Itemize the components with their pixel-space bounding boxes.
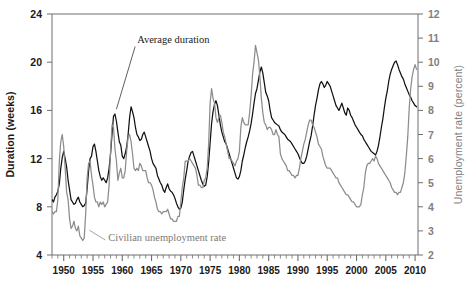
chart-figure: 1950195519601965197019751980198519901995… <box>0 0 475 293</box>
y-tick-label: 16 <box>30 104 42 116</box>
y-axis-title: Duration (weeks) <box>4 91 16 177</box>
x-tick-label: 1995 <box>316 265 339 276</box>
chart-svg: 1950195519601965197019751980198519901995… <box>0 0 475 293</box>
y-tick-label: 24 <box>30 8 42 20</box>
annotation-label: Civilian unemployment rate <box>108 232 226 243</box>
y2-tick-label: 3 <box>428 225 434 237</box>
y2-axis-title: Unemployment rate (percent) <box>452 65 464 204</box>
y2-tick-label: 2 <box>428 249 434 261</box>
x-tick-label: 1965 <box>140 265 163 276</box>
x-tick-label: 1980 <box>228 265 251 276</box>
y2-tick-label: 7 <box>428 129 434 141</box>
x-tick-label: 1985 <box>258 265 281 276</box>
annotation-label: Average duration <box>137 34 210 45</box>
y2-tick-label: 4 <box>428 201 434 213</box>
x-tick-label: 1990 <box>287 265 310 276</box>
y2-tick-label: 11 <box>428 32 439 44</box>
y-tick-label: 4 <box>36 249 42 261</box>
chart-background <box>0 0 475 293</box>
x-tick-label: 2000 <box>345 265 368 276</box>
y2-tick-label: 12 <box>428 8 440 20</box>
x-tick-label: 1975 <box>199 265 222 276</box>
x-tick-label: 1960 <box>111 265 134 276</box>
y2-tick-label: 5 <box>428 177 434 189</box>
y2-tick-label: 10 <box>428 56 440 68</box>
x-tick-label: 2010 <box>404 265 427 276</box>
y2-tick-label: 8 <box>428 104 434 116</box>
x-tick-label: 1955 <box>82 265 105 276</box>
y-tick-label: 20 <box>30 56 42 68</box>
y2-tick-label: 9 <box>428 80 434 92</box>
y2-tick-label: 6 <box>428 153 434 165</box>
y-tick-label: 12 <box>30 153 42 165</box>
x-tick-label: 1950 <box>53 265 76 276</box>
y-tick-label: 8 <box>36 201 42 213</box>
x-tick-label: 1970 <box>170 265 193 276</box>
x-tick-label: 2005 <box>375 265 398 276</box>
